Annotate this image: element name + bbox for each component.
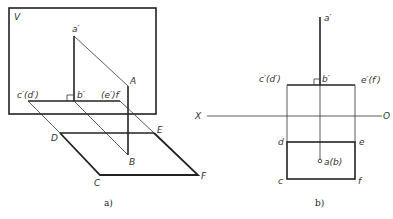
label-e-f-prime-b: e′(f′): [361, 75, 381, 85]
label-b-prime-b: b′: [322, 74, 330, 84]
figure-b: a′ c′(d′) b′ e′(f′) X O d e a(b) c f b): [194, 13, 390, 208]
figure-a: V a′ A c′(d′) b′ (e′)f′ D E B C F a): [9, 8, 207, 208]
label-e: e: [359, 137, 365, 147]
caption-b: b): [315, 198, 324, 208]
label-D: D: [51, 133, 58, 143]
label-e-f-prime: (e′)f′: [101, 90, 121, 100]
label-A: A: [129, 76, 136, 86]
label-C: C: [94, 178, 101, 188]
label-f: f: [358, 176, 363, 186]
right-angle-marker-a: [67, 95, 74, 101]
label-c: c: [278, 176, 283, 186]
line-b-prime-B: [74, 101, 128, 155]
label-E: E: [157, 125, 163, 135]
point-ab: [318, 159, 322, 163]
line-f-prime-E: [120, 101, 154, 133]
label-O: O: [383, 111, 390, 121]
label-ab: a(b): [324, 157, 342, 167]
line-a-prime-A: [74, 36, 128, 86]
label-c-d-prime-b: c′(d′): [259, 74, 281, 84]
label-X: X: [194, 111, 202, 121]
parallelogram-DCFE: [60, 133, 198, 175]
right-angle-marker-b: [314, 79, 320, 85]
label-a-prime: a′: [72, 24, 80, 34]
label-V: V: [14, 12, 21, 22]
line-d-prime-D: [28, 101, 60, 133]
label-b-prime: b′: [77, 90, 85, 100]
projection-diagram: V a′ A c′(d′) b′ (e′)f′ D E B C F a) a′ …: [0, 0, 393, 219]
label-F: F: [201, 171, 207, 181]
label-B: B: [129, 157, 135, 167]
label-c-d-prime: c′(d′): [17, 90, 39, 100]
caption-a: a): [104, 198, 113, 208]
label-a-prime-b: a′: [324, 13, 332, 23]
label-d: d: [278, 137, 284, 147]
